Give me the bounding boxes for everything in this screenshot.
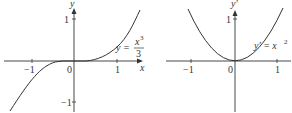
left-graph: y x −1 0 1 1 −1 y = x 3 3 [4,0,145,112]
right-x-tick-0: 0 [228,64,233,75]
left-x-tick-0: 0 [67,64,72,75]
left-y-axis-label: y [69,0,75,9]
svg-text:3: 3 [136,48,141,59]
left-y-tick-neg1: −1 [61,97,72,108]
svg-text:3: 3 [140,34,144,42]
figure-canvas: y x −1 0 1 1 −1 y = x 3 3 y′ −1 0 1 1 y′… [0,0,292,113]
right-x-tick-1: 1 [275,64,280,75]
right-function-label: y′ = x 2 [253,38,288,51]
cubic-curve [10,10,140,111]
left-function-label: y = x 3 3 [115,34,144,59]
right-y-tick-1: 1 [226,14,231,25]
left-x-tick-1: 1 [115,64,120,75]
svg-text:y′ = x: y′ = x [253,40,277,51]
left-x-axis-label: x [139,62,145,73]
right-y-arrow-icon [233,10,238,16]
right-y-axis-label: y′ [230,0,238,9]
right-graph: y′ −1 0 1 1 y′ = x 2 [166,0,291,112]
right-x-tick-neg1: −1 [183,64,194,75]
svg-text:2: 2 [284,38,288,46]
svg-text:y =: y = [115,42,130,53]
left-y-tick-1: 1 [64,14,69,25]
left-x-tick-neg1: −1 [24,64,35,75]
